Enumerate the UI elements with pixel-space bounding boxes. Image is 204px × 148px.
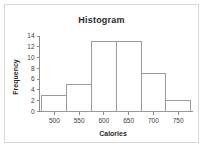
histogram-plot: Frequency Calories 02468101214 500550600… — [5, 5, 200, 144]
x-tick-label: 550 — [74, 117, 85, 124]
y-tick-label: 12 — [27, 43, 35, 50]
histogram-bar — [42, 95, 67, 111]
histogram-bar — [141, 74, 166, 112]
y-tick-label: 4 — [31, 86, 35, 93]
histogram-bar — [67, 85, 92, 112]
x-axis-title: Calories — [99, 130, 127, 137]
y-tick-label: 8 — [31, 65, 35, 72]
x-tick-label: 600 — [98, 117, 109, 124]
figure-frame: Histogram Frequency Calories 02468101214… — [4, 4, 199, 143]
y-tick-label: 2 — [31, 97, 35, 104]
y-tick-group: 02468101214 — [27, 32, 39, 115]
x-tick-group: 500550600650700750 — [49, 112, 184, 124]
y-tick-label: 14 — [27, 32, 35, 39]
x-tick-label: 700 — [148, 117, 159, 124]
histogram-bar — [166, 101, 191, 112]
y-tick-label: 10 — [27, 54, 35, 61]
y-tick-label: 0 — [31, 108, 35, 115]
x-tick-label: 500 — [49, 117, 60, 124]
y-tick-label: 6 — [31, 75, 35, 82]
histogram-bar — [116, 41, 141, 111]
histogram-bar — [91, 41, 116, 111]
x-tick-label: 750 — [173, 117, 184, 124]
x-tick-label: 650 — [123, 117, 134, 124]
bar-group — [42, 41, 191, 111]
y-axis-title: Frequency — [12, 59, 20, 95]
